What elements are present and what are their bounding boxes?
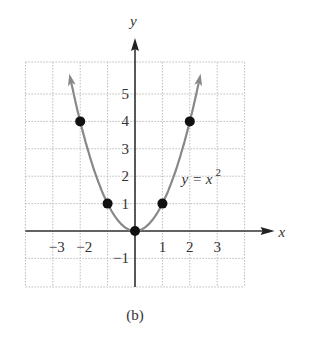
y-tick-label: −1 xyxy=(113,250,129,266)
data-point xyxy=(185,116,195,126)
x-axis-arrow-icon xyxy=(261,227,275,235)
curve-equation-label: y = x2 xyxy=(180,166,221,187)
x-tick-label: 1 xyxy=(159,239,167,255)
x-tick-label: −2 xyxy=(76,239,92,255)
y-axis-label: y xyxy=(128,13,137,29)
x-tick-label: 2 xyxy=(186,239,194,255)
data-point xyxy=(103,199,113,209)
data-point xyxy=(75,116,85,126)
data-point xyxy=(130,226,140,236)
x-axis-label: x xyxy=(278,224,286,240)
figure-caption: (b) xyxy=(126,307,144,324)
data-point xyxy=(157,199,167,209)
y-tick-label: 3 xyxy=(122,141,130,157)
parabola-chart: xy−3−2123−112345y = x2(b) xyxy=(0,0,309,338)
x-tick-label: −3 xyxy=(49,239,65,255)
y-tick-label: 4 xyxy=(122,113,130,129)
y-tick-label: 2 xyxy=(122,168,130,184)
y-tick-label: 5 xyxy=(122,86,130,102)
y-tick-label: 1 xyxy=(122,196,130,212)
x-tick-label: 3 xyxy=(213,239,221,255)
